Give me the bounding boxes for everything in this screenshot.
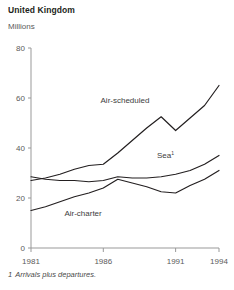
y-axis-tick-label: 0 bbox=[21, 244, 26, 253]
series-label-sea: Sea1 bbox=[157, 150, 174, 160]
y-axis-tick-label: 60 bbox=[16, 94, 25, 103]
footnote: 1Arrivals plus departures. bbox=[8, 270, 96, 279]
series-label-superscript: 1 bbox=[171, 150, 174, 156]
footnote-text: Arrivals plus departures. bbox=[15, 270, 96, 279]
series-line-sea bbox=[31, 156, 219, 182]
y-axis-tick-label: 80 bbox=[16, 44, 25, 53]
x-axis-tick-label: 1986 bbox=[94, 257, 112, 266]
series-label-air-charter: Air-charter bbox=[64, 209, 102, 218]
chart-card: United Kingdom Millions 0204060801981198… bbox=[0, 0, 234, 290]
line-chart-plot: 0204060801981198619911994Air-scheduledSe… bbox=[0, 0, 234, 270]
x-axis-tick-label: 1994 bbox=[210, 257, 228, 266]
y-axis-tick-label: 20 bbox=[16, 194, 25, 203]
series-label-air-scheduled: Air-scheduled bbox=[101, 96, 150, 105]
x-axis-tick-label: 1981 bbox=[22, 257, 40, 266]
x-axis-tick-label: 1991 bbox=[167, 257, 185, 266]
series-line-air-charter bbox=[31, 171, 219, 211]
footnote-marker: 1 bbox=[8, 270, 12, 279]
y-axis-tick-label: 40 bbox=[16, 144, 25, 153]
